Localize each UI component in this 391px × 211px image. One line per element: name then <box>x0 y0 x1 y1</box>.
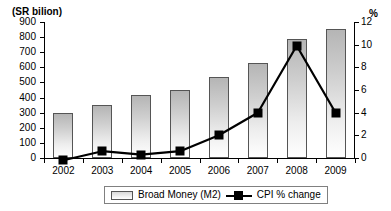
y-axis-left-tick-label: 800 <box>6 32 36 42</box>
x-axis-tick <box>161 159 162 163</box>
x-axis-tick-label: 2003 <box>82 166 122 176</box>
y-axis-right-tick-label: 2 <box>361 130 385 140</box>
y-axis-right-tick-label: 8 <box>361 62 385 72</box>
cpi-data-point-marker <box>253 108 262 117</box>
y-axis-right-tick-label: 10 <box>361 40 385 50</box>
cpi-data-point-marker <box>137 150 146 159</box>
legend-label-cpi: CPI % change <box>257 190 321 200</box>
x-axis-tick <box>44 159 45 163</box>
x-axis-tick-label: 2004 <box>121 166 161 176</box>
plot-area: 9008007006005004003002001000 121086420 2… <box>44 22 355 158</box>
y-axis-left-tick-label: 100 <box>6 138 36 148</box>
x-axis-tick <box>83 159 84 163</box>
y-axis-right-tick <box>355 22 359 23</box>
cpi-polyline <box>63 46 335 161</box>
x-axis-tick <box>316 159 317 163</box>
legend-label-broad-money: Broad Money (M2) <box>138 190 221 200</box>
y-axis-right-tick <box>355 90 359 91</box>
y-axis-right-tick-label: 4 <box>361 108 385 118</box>
chart-container: (SR bilion) % 90080070060050040030020010… <box>0 0 391 211</box>
y-axis-right-tick <box>355 113 359 114</box>
cpi-data-point-marker <box>292 41 301 50</box>
x-axis-tick <box>277 159 278 163</box>
x-axis-tick-label: 2006 <box>199 166 239 176</box>
x-axis-tick-label: 2005 <box>160 166 200 176</box>
cpi-data-point-marker <box>59 156 68 165</box>
x-axis-tick-label: 2008 <box>277 166 317 176</box>
chart-legend: Broad Money (M2) CPI % change <box>104 186 328 204</box>
x-axis-tick <box>238 159 239 163</box>
y-axis-left-tick-label: 600 <box>6 62 36 72</box>
y-axis-right-tick-label: 12 <box>361 17 385 27</box>
y-axis-left-tick-label: 500 <box>6 77 36 87</box>
y-axis-right-tick-label: 0 <box>361 153 385 163</box>
y-axis-left-tick-label: 700 <box>6 47 36 57</box>
y-axis-left-tick-label: 300 <box>6 108 36 118</box>
y-axis-right-tick-label: 6 <box>361 85 385 95</box>
cpi-data-point-marker <box>176 147 185 156</box>
x-axis-tick <box>355 159 356 163</box>
y-axis-left-tick-label: 400 <box>6 93 36 103</box>
legend-swatch-broad-money-icon <box>111 191 133 200</box>
legend-swatch-cpi-icon <box>226 191 252 200</box>
y-axis-right-tick <box>355 67 359 68</box>
cpi-data-point-marker <box>214 131 223 140</box>
x-axis-tick-label: 2009 <box>316 166 356 176</box>
x-axis-tick-label: 2002 <box>43 166 83 176</box>
legend-square-marker-icon <box>234 191 243 200</box>
y-axis-left-tick-label: 0 <box>6 153 36 163</box>
y-axis-left-tick-label: 900 <box>6 17 36 27</box>
x-axis-tick <box>122 159 123 163</box>
line-series-cpi <box>44 22 355 159</box>
y-axis-right-tick <box>355 45 359 46</box>
cpi-data-point-marker <box>98 147 107 156</box>
x-axis-tick <box>200 159 201 163</box>
y-axis-left-tick-label: 200 <box>6 123 36 133</box>
y-axis-right-tick <box>355 135 359 136</box>
cpi-data-point-marker <box>331 108 340 117</box>
x-axis-tick-label: 2007 <box>238 166 278 176</box>
